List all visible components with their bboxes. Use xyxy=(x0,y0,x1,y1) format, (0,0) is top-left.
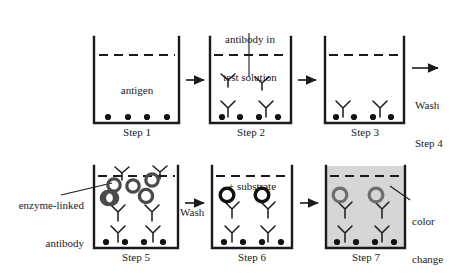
well-step-1 xyxy=(94,37,179,123)
bound-antibody xyxy=(225,226,239,242)
step-3-label: Step 3 xyxy=(337,126,393,139)
step-7-label: Step 7 xyxy=(338,251,394,264)
color-change-fill xyxy=(326,166,405,248)
antigen-label: antigen xyxy=(109,84,165,97)
antigen-dots xyxy=(103,239,166,245)
step-6-label: Step 6 xyxy=(224,251,280,264)
callout-line-1: antibody in xyxy=(205,33,295,46)
enzyme-linked-antibody xyxy=(127,180,139,192)
bound-antibody xyxy=(373,101,387,117)
callout-line-1: color xyxy=(412,215,458,228)
well-step-6 xyxy=(212,166,292,248)
wash-label: Wash xyxy=(415,99,459,112)
bound-antibody xyxy=(111,226,125,242)
step-2-callout: antibody in test solution xyxy=(205,8,295,96)
bound-enzyme-antibody xyxy=(220,188,239,218)
bound-antibody xyxy=(336,101,350,117)
callout-line-2: change xyxy=(412,253,458,266)
well-step-3 xyxy=(325,37,404,123)
bound-antibody xyxy=(259,101,273,117)
color-change-callout: color change xyxy=(412,190,458,276)
callout-line-1: enzyme-linked xyxy=(2,199,84,212)
step-4-label: Step 4 xyxy=(415,137,459,150)
bound-enzyme-antibody xyxy=(255,188,275,218)
step-1-label: Step 1 xyxy=(109,126,165,139)
bound-antibody xyxy=(146,226,160,242)
antigen-dots xyxy=(221,239,284,245)
step-2-label: Step 2 xyxy=(223,126,279,139)
step-5-label: Step 5 xyxy=(108,251,164,264)
wash-step5-caption: Wash xyxy=(180,206,212,219)
substrate-label: + substrate xyxy=(216,180,288,193)
bound-enzyme-antibody xyxy=(139,189,159,221)
wash-step4-caption: Wash Step 4 xyxy=(415,74,459,162)
callout-line-2: antibody xyxy=(2,237,84,250)
well-step-7 xyxy=(326,166,410,248)
enzyme-linked-antibody-callout: enzyme-linked antibody xyxy=(2,174,84,262)
antigen-dots xyxy=(105,114,170,120)
antigen-dots xyxy=(333,114,394,120)
callout-line-2: test solution xyxy=(205,71,295,84)
